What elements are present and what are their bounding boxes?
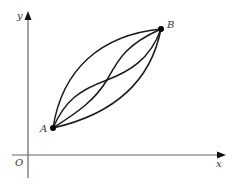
origin-label: O [15,157,23,168]
x-axis-label: x [216,158,222,169]
point-a [50,125,56,131]
curves [53,29,161,128]
axes [12,11,226,178]
point-b [158,26,164,32]
y-axis-label: y [16,10,23,21]
s-curve-2 [53,29,161,128]
paths-diagram: y x O A B [0,0,239,190]
y-axis-arrow-icon [25,11,32,20]
point-a-label: A [39,123,47,134]
point-b-label: B [166,19,174,30]
